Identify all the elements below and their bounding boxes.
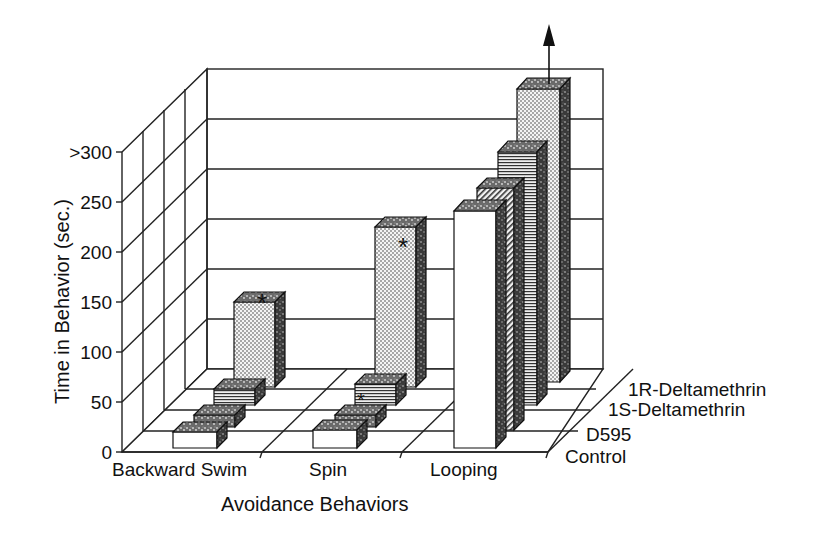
bar-spin-control [313, 420, 367, 448]
depth-label-d595: D595 [586, 425, 631, 444]
category-label-spin: Spin [309, 460, 347, 479]
y-axis-label: Time in Behavior (sec.) [51, 192, 74, 412]
y-tick-0: 0 [52, 443, 112, 462]
category-label-backward-swim: Backward Swim [112, 460, 247, 479]
significance-star-spin-d595: * [357, 390, 365, 410]
significance-star-spin-1r: * [398, 234, 408, 260]
x-axis-label: Avoidance Behaviors [221, 494, 409, 514]
bar-looping-control [454, 200, 506, 448]
depth-label-1s-deltamethrin: 1S-Deltamethrin [608, 400, 745, 419]
significance-star-backward-swim: * [257, 290, 267, 316]
bar-backward-swim-1s [214, 379, 265, 405]
y-tick-300: >300 [52, 143, 112, 162]
depth-label-1r-deltamethrin: 1R-Deltamethrin [628, 380, 766, 399]
category-label-looping: Looping [430, 460, 498, 479]
depth-label-control: Control [565, 447, 626, 466]
bar-backward-swim-control [173, 422, 227, 448]
